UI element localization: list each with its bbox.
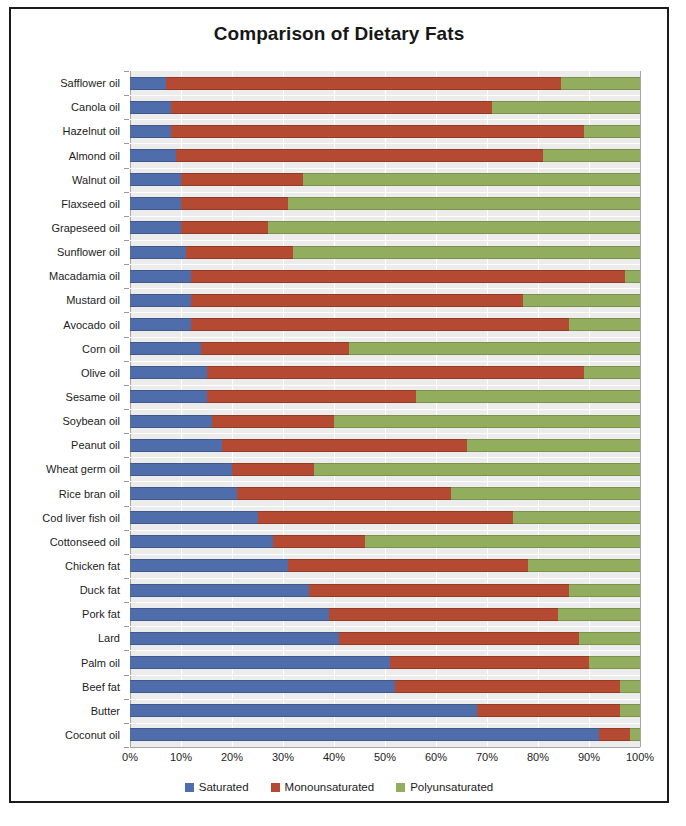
bar-row [130,125,640,138]
y-axis-label: Almond oil [69,150,120,162]
bar-segment-polyunsaturated [523,294,640,307]
y-axis-label: Grapeseed oil [52,222,121,234]
bar-segment-polyunsaturated [625,270,640,283]
bar-segment-monounsaturated [166,77,561,90]
chart-title: Comparison of Dietary Fats [11,23,667,45]
row-separator [130,578,640,579]
legend-item-saturated[interactable]: Saturated [185,781,249,793]
bar-segment-saturated [130,584,309,597]
bar-segment-saturated [130,632,339,645]
legend-item-polyunsaturated[interactable]: Polyunsaturated [396,781,493,793]
y-axis-label: Coconut oil [65,729,120,741]
bar-segment-polyunsaturated [569,584,640,597]
bar-segment-polyunsaturated [349,342,640,355]
y-axis-label: Avocado oil [63,319,120,331]
bar-segment-polyunsaturated [288,197,640,210]
bar-segment-monounsaturated [273,535,365,548]
bar-row [130,704,640,717]
row-separator [130,240,640,241]
bar-segment-polyunsaturated [561,77,640,90]
bar-segment-monounsaturated [390,656,589,669]
bar-segment-monounsaturated [599,728,630,741]
y-axis-label: Canola oil [71,101,120,113]
y-axis-tick [124,481,129,482]
bar-segment-saturated [130,487,237,500]
bar-segment-saturated [130,656,390,669]
bar-segment-polyunsaturated [365,535,640,548]
x-axis-tick-label: 100% [626,751,654,763]
bar-segment-saturated [130,197,181,210]
y-axis-tick [124,723,129,724]
y-axis-label: Peanut oil [71,439,120,451]
row-separator [130,699,640,700]
bar-segment-polyunsaturated [579,632,640,645]
y-axis-tick [124,337,129,338]
legend-swatch-monounsaturated-icon [271,783,280,792]
bar-segment-polyunsaturated [630,728,640,741]
bar-segment-monounsaturated [288,559,528,572]
y-axis-tick [124,457,129,458]
bar-segment-saturated [130,173,181,186]
row-separator [130,675,640,676]
bar-row [130,366,640,379]
y-axis-tick [124,747,129,748]
bar-segment-polyunsaturated [492,101,640,114]
legend-label: Saturated [199,781,249,793]
bar-segment-polyunsaturated [268,221,640,234]
bar-row [130,342,640,355]
bar-segment-polyunsaturated [543,149,640,162]
y-axis-tick [124,192,129,193]
x-axis-labels: 0%10%20%30%40%50%60%70%80%90%100% [130,751,640,771]
bar-segment-saturated [130,704,477,717]
bar-segment-polyunsaturated [513,511,641,524]
x-axis-tick-label: 40% [323,751,345,763]
bar-segment-saturated [130,294,191,307]
bar-row [130,246,640,259]
row-separator [130,433,640,434]
y-axis-label: Pork fat [82,608,120,620]
bar-segment-monounsaturated [477,704,620,717]
gridline-100pct [640,71,641,747]
bar-segment-saturated [130,608,329,621]
bar-segment-saturated [130,511,258,524]
bar-segment-saturated [130,77,166,90]
bar-row [130,487,640,500]
y-axis-tick [124,626,129,627]
chart-page: Comparison of Dietary Fats Safflower oil… [0,0,686,826]
bar-segment-polyunsaturated [584,366,640,379]
bar-segment-saturated [130,366,207,379]
bar-row [130,390,640,403]
row-separator [130,481,640,482]
row-separator [130,337,640,338]
bar-segment-monounsaturated [339,632,579,645]
y-axis-tick [124,385,129,386]
y-axis-tick [124,650,129,651]
bar-row [130,535,640,548]
bar-segment-polyunsaturated [416,390,640,403]
y-axis-tick [124,168,129,169]
bar-segment-polyunsaturated [569,318,640,331]
bar-rows [130,71,640,747]
bar-segment-monounsaturated [191,270,625,283]
bar-segment-saturated [130,125,171,138]
y-axis-tick [124,288,129,289]
bar-segment-polyunsaturated [620,680,640,693]
y-axis-label: Macadamia oil [49,270,120,282]
bar-row [130,318,640,331]
y-axis-label: Cod liver fish oil [42,512,120,524]
bar-segment-saturated [130,680,395,693]
row-separator [130,216,640,217]
bar-segment-monounsaturated [171,101,492,114]
bar-row [130,656,640,669]
y-axis-tick [124,506,129,507]
bar-segment-saturated [130,390,207,403]
bar-segment-saturated [130,149,176,162]
bar-segment-monounsaturated [181,173,303,186]
y-axis-label: Duck fat [80,584,120,596]
legend-item-monounsaturated[interactable]: Monounsaturated [271,781,375,793]
bar-segment-polyunsaturated [303,173,640,186]
legend-swatch-saturated-icon [185,783,194,792]
bar-row [130,415,640,428]
bar-segment-monounsaturated [237,487,451,500]
row-separator [130,312,640,313]
